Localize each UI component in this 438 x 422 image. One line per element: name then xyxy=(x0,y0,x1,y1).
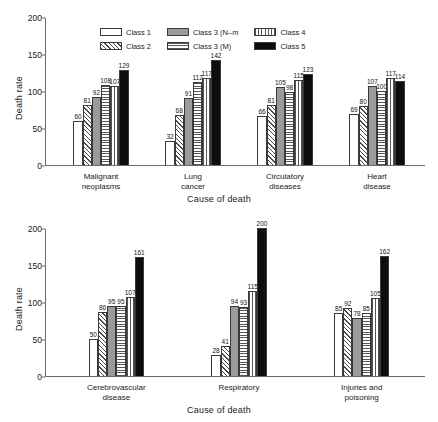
bar: 50 xyxy=(89,339,98,376)
bars-container-bottom: 5086959510716128419493115200859278851051… xyxy=(45,229,425,377)
x-axis-category-line: Lung xyxy=(181,172,205,182)
bar-value-label: 95 xyxy=(108,299,115,306)
bar: 86 xyxy=(98,312,107,376)
bar-slot: 95 xyxy=(107,228,116,376)
bar-value-label: 32 xyxy=(166,134,173,141)
bar: 129 xyxy=(119,70,128,165)
bar-group: 50869595107161 xyxy=(89,228,144,376)
chart-panel-top: Death rate 60819210810712932689111211714… xyxy=(0,0,438,211)
plot-area-bottom: 5086959510716128419493115200859278851051… xyxy=(45,229,425,377)
x-axis-category-label: Heartdisease xyxy=(363,172,391,192)
bar: 117 xyxy=(386,78,395,165)
legend-item: Class 3 (N–m xyxy=(167,28,238,37)
legend-item: Class 4 xyxy=(254,28,305,37)
bar: 78 xyxy=(352,318,361,376)
bar-slot: 114 xyxy=(395,17,404,165)
bar-value-label: 81 xyxy=(84,98,91,105)
bar-value-label: 68 xyxy=(176,108,183,115)
y-axis-tick-mark xyxy=(41,229,45,230)
bar-slot: 92 xyxy=(343,228,352,376)
bar-value-label: 142 xyxy=(211,53,222,60)
bar: 66 xyxy=(257,116,266,165)
legend-swatch xyxy=(100,42,122,50)
bar-slot: 50 xyxy=(89,228,98,376)
bar: 60 xyxy=(73,121,82,165)
bar: 81 xyxy=(83,105,92,165)
y-axis-tick-mark xyxy=(41,129,45,130)
legend-item: Class 3 (M) xyxy=(167,42,238,51)
bar: 117 xyxy=(202,78,211,165)
bar-value-label: 114 xyxy=(395,74,405,81)
x-axis-label-top: Cause of death xyxy=(0,194,438,204)
x-axis-category-line: neoplasms xyxy=(82,182,121,192)
bar: 115 xyxy=(248,291,257,376)
bar-value-label: 123 xyxy=(303,67,314,74)
x-axis-category-label: Cerebrovasculardisease xyxy=(87,383,146,403)
y-axis-tick-mark xyxy=(41,166,45,167)
bar-value-label: 60 xyxy=(74,114,81,121)
bar: 81 xyxy=(267,105,276,165)
x-axis-category-line: poisoning xyxy=(341,393,382,403)
bar-value-label: 81 xyxy=(268,98,275,105)
legend: Class 1Class 3 (N–mClass 4Class 2Class 3… xyxy=(100,26,305,52)
bar: 68 xyxy=(175,115,184,165)
bar: 123 xyxy=(303,74,312,165)
x-axis-label-bottom: Cause of death xyxy=(0,405,438,415)
legend-item: Class 2 xyxy=(100,42,151,51)
legend-label: Class 5 xyxy=(280,42,305,51)
bar-slot: 200 xyxy=(257,228,266,376)
bar: 41 xyxy=(221,346,230,376)
bar-value-label: 95 xyxy=(117,299,124,306)
bar-value-label: 91 xyxy=(185,91,192,98)
bar-value-label: 92 xyxy=(344,301,351,308)
bar-slot: 162 xyxy=(380,228,389,376)
bar-slot: 60 xyxy=(73,17,82,165)
bar-value-label: 94 xyxy=(231,299,238,306)
bar-slot: 80 xyxy=(359,17,368,165)
x-axis-category-line: Circulatory xyxy=(266,172,304,182)
y-axis-tick-mark xyxy=(41,55,45,56)
x-axis-category-line: diseases xyxy=(266,182,304,192)
bar-value-label: 80 xyxy=(360,99,367,106)
bar-value-label: 98 xyxy=(286,85,293,92)
bar-value-label: 66 xyxy=(258,109,265,116)
bar: 93 xyxy=(239,307,248,376)
bar-group: 6980107100117114 xyxy=(349,17,404,165)
bar: 105 xyxy=(276,87,285,165)
bar: 92 xyxy=(343,308,352,376)
y-axis-tick-mark xyxy=(41,18,45,19)
bar-slot: 93 xyxy=(239,228,248,376)
bar-slot: 95 xyxy=(116,228,125,376)
bar-value-label: 161 xyxy=(134,250,145,257)
bar-value-label: 162 xyxy=(379,249,390,256)
bar: 32 xyxy=(165,141,174,165)
bar: 85 xyxy=(362,313,371,376)
y-axis-tick-mark xyxy=(41,340,45,341)
bar: 100 xyxy=(377,91,386,165)
y-axis-tick-mark xyxy=(41,303,45,304)
x-axis-category-line: cancer xyxy=(181,182,205,192)
bar-value-label: 69 xyxy=(350,107,357,114)
x-axis-category-label: Lungcancer xyxy=(181,172,205,192)
y-axis-label-top: Death rate xyxy=(14,76,24,120)
bar-value-label: 86 xyxy=(99,305,106,312)
x-axis-category-label: Respiratory xyxy=(219,383,260,393)
y-axis-tick-mark xyxy=(41,92,45,93)
bar: 161 xyxy=(135,257,144,376)
bar-value-label: 93 xyxy=(240,300,247,307)
bar: 107 xyxy=(126,297,135,376)
bar-value-label: 92 xyxy=(93,90,100,97)
bar-value-label: 200 xyxy=(257,221,268,228)
legend-item: Class 5 xyxy=(254,42,305,51)
bar-value-label: 85 xyxy=(335,306,342,313)
bar-group: 28419493115200 xyxy=(211,228,266,376)
legend-swatch xyxy=(254,42,276,50)
bar: 69 xyxy=(349,114,358,165)
bar: 114 xyxy=(395,81,404,165)
bar-slot: 85 xyxy=(362,228,371,376)
bar: 80 xyxy=(359,106,368,165)
bar-value-label: 50 xyxy=(90,332,97,339)
y-axis-label-bottom: Death rate xyxy=(14,287,24,331)
bar: 105 xyxy=(371,298,380,376)
bar-slot: 161 xyxy=(135,228,144,376)
